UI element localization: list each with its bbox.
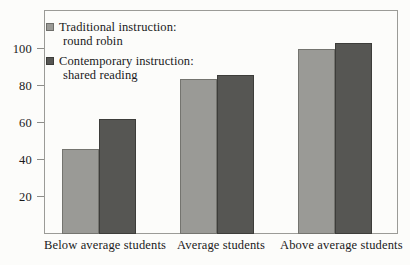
y-axis-tick-label: 40 <box>19 153 32 167</box>
x-axis-tick-label: Average students <box>162 238 280 253</box>
y-axis-tick-mark <box>37 48 44 49</box>
legend-label-contemporary-line1: Contemporary instruction: <box>59 54 236 68</box>
y-axis-tick-label: 60 <box>19 116 32 130</box>
y-axis-tick-mark <box>37 196 44 197</box>
y-axis-tick-mark <box>37 85 44 86</box>
legend-swatch-contemporary-icon <box>46 57 54 65</box>
legend-swatch-traditional-icon <box>46 23 54 31</box>
y-axis-tick-label: 100 <box>13 42 32 56</box>
y-axis-tick-label: 80 <box>19 79 32 93</box>
bar <box>298 49 335 234</box>
x-axis: Below average studentsAverage studentsAb… <box>44 238 398 262</box>
bar <box>180 79 217 235</box>
y-axis-tick: 100 <box>0 42 44 56</box>
bar <box>62 149 99 234</box>
y-axis-tick: 80 <box>0 79 44 93</box>
legend-label-contemporary-line2: shared reading <box>59 68 236 82</box>
bar-chart-figure: 20406080100 Below average studentsAverag… <box>0 0 410 265</box>
chart-legend: Traditional instruction: round robin Con… <box>46 20 236 88</box>
legend-label-traditional-line1: Traditional instruction: <box>59 20 236 34</box>
bar <box>335 43 372 234</box>
x-axis-tick-label: Below average students <box>44 238 162 253</box>
y-axis-tick-label: 20 <box>19 190 32 204</box>
bar <box>99 119 136 234</box>
y-axis-tick-mark <box>37 159 44 160</box>
y-axis-tick: 60 <box>0 116 44 130</box>
bar-group <box>280 10 398 234</box>
y-axis-tick-mark <box>37 122 44 123</box>
legend-label-traditional-line2: round robin <box>59 34 236 48</box>
legend-item-traditional: Traditional instruction: round robin <box>46 20 236 48</box>
y-axis: 20406080100 <box>0 0 44 244</box>
legend-item-contemporary: Contemporary instruction: shared reading <box>46 54 236 82</box>
x-axis-tick-label: Above average students <box>280 238 398 253</box>
y-axis-tick: 40 <box>0 153 44 167</box>
bar <box>217 75 254 234</box>
y-axis-tick: 20 <box>0 190 44 204</box>
